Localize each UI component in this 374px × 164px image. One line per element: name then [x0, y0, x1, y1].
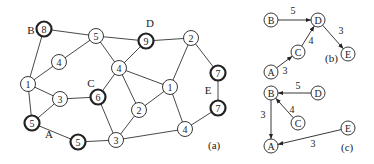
graph-node: 5 [25, 116, 40, 131]
region-label: B [27, 24, 34, 36]
graph-node: 3 [53, 92, 68, 107]
node-label: B [268, 15, 275, 26]
graph-node: 5 [71, 135, 86, 150]
region-label: A [45, 128, 53, 140]
region-label: E [205, 84, 212, 96]
graph-figure: 85924413617725534 BDCEA (a) 5433BDCEA (b… [0, 0, 374, 164]
graph-node: E [341, 47, 355, 61]
graph-node: 7 [211, 66, 226, 81]
node-label: 7 [216, 68, 221, 79]
node-label: 1 [168, 82, 173, 93]
node-label: E [345, 123, 351, 134]
directed-edge [278, 130, 341, 145]
node-label: 6 [96, 92, 101, 103]
graph-node: B [264, 13, 278, 27]
edge-weight: 4 [290, 104, 295, 115]
graph-node: D [311, 13, 325, 27]
edge-weight: 3 [261, 109, 266, 120]
graph-node: 8 [37, 22, 52, 37]
graph-edge [116, 129, 185, 140]
region-label: D [146, 17, 154, 29]
node-label: 3 [58, 94, 63, 105]
graph-node: 4 [178, 122, 193, 137]
graph-node: D [311, 86, 325, 100]
node-label: 2 [189, 33, 194, 44]
graph-node: 7 [211, 101, 226, 116]
graph-a-caption: (a) [208, 139, 221, 152]
graph-edge [170, 38, 191, 87]
node-label: E [345, 49, 351, 60]
graph-c-caption: (c) [341, 141, 354, 154]
graph-node: 6 [91, 90, 106, 105]
graph-b: 5433BDCEA [264, 5, 355, 79]
node-label: 3 [114, 135, 119, 146]
node-label: B [268, 88, 275, 99]
node-label: 5 [76, 137, 81, 148]
graph-node: C [291, 116, 305, 130]
graph-canvas: 85924413617725534 BDCEA (a) 5433BDCEA (b… [0, 0, 374, 164]
node-label: C [295, 118, 302, 129]
edge-weight: 5 [296, 80, 301, 91]
edge-weight: 3 [339, 25, 344, 36]
node-label: 5 [30, 118, 35, 129]
graph-node: C [291, 45, 305, 59]
graph-node: A [264, 65, 278, 79]
graph-b-caption: (b) [325, 52, 338, 65]
node-label: 4 [183, 124, 188, 135]
node-label: 7 [216, 103, 221, 114]
node-label: D [314, 88, 321, 99]
node-label: 4 [57, 57, 62, 68]
node-label: 1 [26, 79, 31, 90]
region-label: C [87, 77, 94, 89]
graph-node: 3 [109, 133, 124, 148]
graph-node: 2 [184, 31, 199, 46]
node-label: 2 [137, 105, 142, 116]
graph-node: E [341, 121, 355, 135]
node-label: A [267, 141, 275, 152]
graph-node: 4 [52, 55, 67, 70]
graph-node: 1 [163, 80, 178, 95]
node-label: 5 [94, 31, 99, 42]
node-label: C [295, 47, 302, 58]
edge-weight: 3 [311, 138, 316, 149]
graph-node: B [264, 86, 278, 100]
graph-node: 9 [139, 34, 154, 49]
edge-weight: 5 [291, 5, 296, 16]
graph-node: 5 [89, 29, 104, 44]
node-label: 4 [117, 63, 122, 74]
graph-node: A [264, 139, 278, 153]
graph-node: 2 [132, 103, 147, 118]
graph-node: 1 [21, 77, 36, 92]
edge-weight: 4 [309, 35, 314, 46]
node-label: D [314, 15, 321, 26]
node-label: 8 [42, 24, 47, 35]
node-label: A [267, 67, 275, 78]
graph-node: 4 [112, 61, 127, 76]
node-label: 9 [144, 36, 149, 47]
edge-weight: 3 [283, 65, 288, 76]
